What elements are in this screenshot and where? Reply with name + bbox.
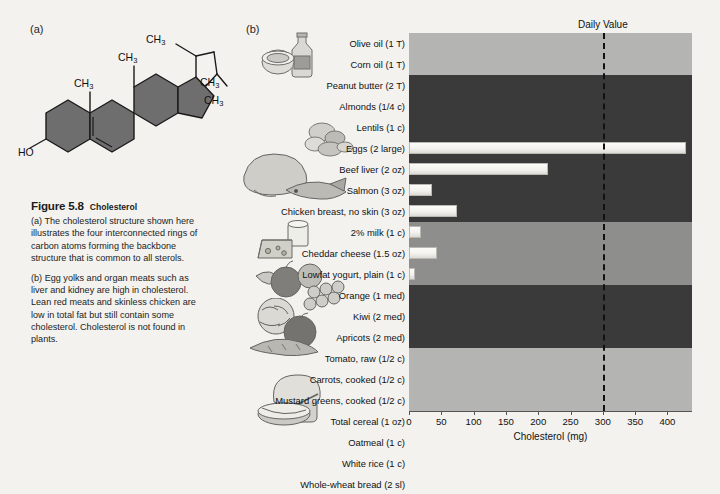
bar-row xyxy=(409,54,692,75)
x-axis-title: Cholesterol (mg) xyxy=(409,431,692,442)
methyl-label-c27: CH3 xyxy=(204,94,223,108)
category-label: Kiwi (2 med) xyxy=(246,306,408,327)
bar-row xyxy=(409,243,692,264)
bar-row xyxy=(409,306,692,327)
category-label: 2% milk (1 c) xyxy=(246,222,408,243)
caption-part-b: (b) Egg yolks and organ meats such as li… xyxy=(31,272,206,345)
category-label: Almonds (1/4 c) xyxy=(246,96,408,117)
category-label: Mustard greens, cooked (1/2 c) xyxy=(246,390,408,411)
x-tick xyxy=(635,411,636,415)
x-tick-label: 400 xyxy=(659,416,675,427)
caption-part-a: (a) The cholesterol structure shown here… xyxy=(31,215,206,264)
category-label: Corn oil (1 T) xyxy=(246,54,408,75)
x-tick-label: 150 xyxy=(498,416,514,427)
category-label: Carrots, cooked (1/2 c) xyxy=(246,369,408,390)
category-label: Salmon (3 oz) xyxy=(246,180,408,201)
bar xyxy=(409,184,432,196)
bar xyxy=(409,226,421,238)
category-label: Total cereal (1 oz) xyxy=(246,411,408,432)
bar-row xyxy=(409,327,692,348)
category-label: Lowfat yogurt, plain (1 c) xyxy=(246,264,408,285)
category-label: Whole-wheat bread (2 sl) xyxy=(246,474,408,494)
x-tick-label: 200 xyxy=(530,416,546,427)
category-label: Chicken breast, no skin (3 oz) xyxy=(246,201,408,222)
bar xyxy=(409,247,437,259)
bar-row xyxy=(409,264,692,285)
category-label: Oatmeal (1 c) xyxy=(246,432,408,453)
bar-row xyxy=(409,369,692,390)
bar-row xyxy=(409,390,692,411)
daily-value-line xyxy=(603,33,605,411)
category-label: Apricots (2 med) xyxy=(246,327,408,348)
bar-row xyxy=(409,117,692,138)
category-label: Peanut butter (2 T) xyxy=(246,75,408,96)
x-tick xyxy=(667,411,668,415)
x-tick xyxy=(441,411,442,415)
bar-row xyxy=(409,33,692,54)
category-label: Beef liver (2 oz) xyxy=(246,159,408,180)
bar xyxy=(409,268,415,280)
cholesterol-structure-diagram: HO CH3 CH3 CH3 CH3 CH3 xyxy=(18,34,233,189)
x-tick xyxy=(474,411,475,415)
bar xyxy=(409,205,457,217)
x-tick-label: 250 xyxy=(563,416,579,427)
cholesterol-bar-chart: Olive oil (1 T)Corn oil (1 T)Peanut butt… xyxy=(246,20,712,445)
x-tick xyxy=(506,411,507,415)
category-label: Orange (1 med) xyxy=(246,285,408,306)
methyl-label-c26: CH3 xyxy=(200,76,219,90)
x-axis-line xyxy=(409,411,692,412)
figure-caption: Figure 5.8Cholesterol (a) The cholestero… xyxy=(31,200,206,353)
category-label: Eggs (2 large) xyxy=(246,138,408,159)
hydroxyl-label: HO xyxy=(18,146,34,158)
bar-row xyxy=(409,222,692,243)
category-label-column: Olive oil (1 T)Corn oil (1 T)Peanut butt… xyxy=(246,33,408,494)
figure-heading: Figure 5.8Cholesterol xyxy=(31,200,206,213)
bar-row xyxy=(409,96,692,117)
cholesterol-structure-svg: HO CH3 CH3 CH3 CH3 CH3 xyxy=(18,34,233,189)
category-label: Lentils (1 c) xyxy=(246,117,408,138)
bar-row xyxy=(409,138,692,159)
category-label: Tomato, raw (1/2 c) xyxy=(246,348,408,369)
methyl-label-c18: CH3 xyxy=(118,51,137,65)
figure-number: Figure 5.8 xyxy=(31,199,84,212)
bar-row xyxy=(409,180,692,201)
x-tick xyxy=(603,411,604,415)
category-label: Cheddar cheese (1.5 oz) xyxy=(246,243,408,264)
x-tick-label: 0 xyxy=(406,416,411,427)
daily-value-label: Daily Value xyxy=(578,19,628,30)
x-tick xyxy=(538,411,539,415)
bar xyxy=(409,142,686,154)
methyl-label-c21: CH3 xyxy=(146,34,165,47)
bar xyxy=(409,163,548,175)
x-tick-label: 50 xyxy=(436,416,447,427)
methyl-label-c19: CH3 xyxy=(74,77,93,91)
bar-row xyxy=(409,348,692,369)
x-tick xyxy=(571,411,572,415)
figure-title: Cholesterol xyxy=(90,202,137,212)
plot-area xyxy=(409,33,692,411)
category-label: White rice (1 c) xyxy=(246,453,408,474)
x-tick-label: 100 xyxy=(466,416,482,427)
bar-row xyxy=(409,75,692,96)
x-tick-label: 350 xyxy=(627,416,643,427)
bar-row xyxy=(409,201,692,222)
x-axis: 050100150200250300350400 Cholesterol (mg… xyxy=(409,411,692,445)
x-tick-label: 300 xyxy=(595,416,611,427)
bar-row xyxy=(409,159,692,180)
x-tick xyxy=(409,411,410,415)
category-label: Olive oil (1 T) xyxy=(246,33,408,54)
bar-row xyxy=(409,285,692,306)
